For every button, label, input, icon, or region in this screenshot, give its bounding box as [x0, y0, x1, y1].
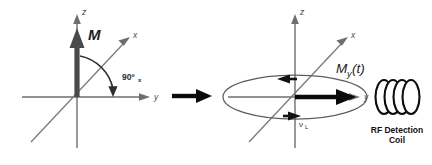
right-panel: z x y M y (t) ν L RF Detection Coil	[223, 7, 423, 148]
diagram-canvas: z x y M 90º x	[0, 0, 432, 165]
ninety-degree-arc	[80, 56, 118, 97]
transverse-magnetization-vector	[295, 89, 356, 105]
left-y-axis	[22, 93, 150, 101]
pulse-angle-label: 90º	[122, 72, 135, 82]
larmor-frequency-label: ν	[299, 120, 303, 129]
right-y-axis-label: y	[363, 92, 369, 102]
rf-detection-coil	[376, 80, 420, 114]
coil-label-line2: Coil	[389, 135, 405, 145]
right-z-axis-label: z	[299, 7, 305, 17]
right-x-axis-label: x	[350, 30, 356, 40]
left-z-axis-label: z	[81, 7, 87, 17]
left-y-axis-label: y	[153, 92, 159, 102]
nmr-pulse-diagram: z x y M 90º x	[0, 0, 432, 165]
larmor-frequency-sublabel: L	[305, 124, 309, 130]
right-z-axis	[291, 14, 299, 148]
left-x-axis-label: x	[132, 30, 138, 40]
transverse-magnetization-arg: (t)	[352, 61, 365, 76]
transition-arrow	[172, 89, 212, 103]
left-panel: z x y M 90º x	[22, 7, 159, 148]
magnetization-label: M	[88, 26, 101, 43]
coil-loop-4	[403, 80, 420, 114]
pulse-axis-sublabel: x	[138, 77, 142, 83]
coil-label-line1: RF Detection	[371, 125, 423, 135]
